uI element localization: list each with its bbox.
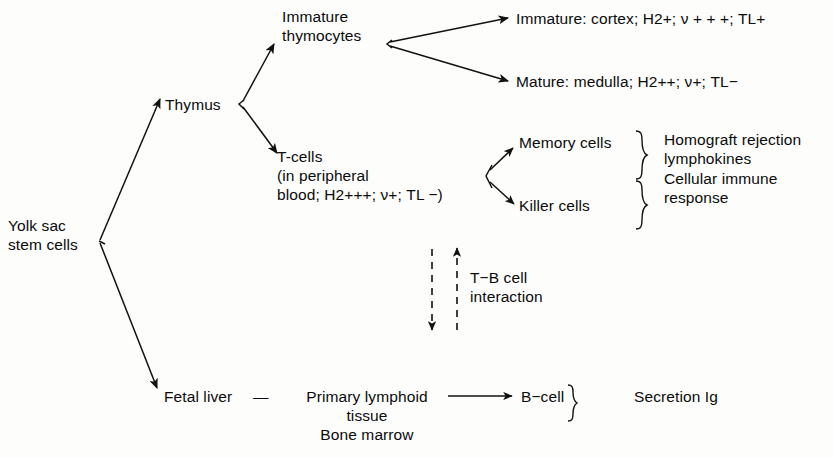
brace-memory-cells [634, 130, 650, 180]
node-immature-cortex: Immature: cortex; H2+; ν + + +; TL+ [516, 9, 765, 28]
node-fetal-liver: Fetal liver [164, 387, 232, 406]
diagram-canvas: Yolk sac stem cells Thymus Immature thym… [0, 0, 833, 457]
node-killer-cells: Killer cells [519, 196, 590, 215]
node-memory-cells: Memory cells [519, 133, 612, 152]
node-immature-thymocytes: Immature thymocytes [282, 7, 361, 45]
edge-thymus-to-immature-thymocytes [243, 44, 274, 101]
node-mature-medulla: Mature: medulla; H2++; ν+; TL− [516, 72, 738, 91]
edge-thymocytes-to-mature-medulla [390, 46, 508, 81]
node-yolk-sac-stem-cells: Yolk sac stem cells [8, 216, 138, 254]
node-t-cells: T-cells (in peripheral blood; H2+++; ν+;… [277, 147, 443, 204]
node-t-b-cell-interaction: T−B cell interaction [470, 268, 543, 306]
node-homograft-rejection: Homograft rejection lymphokines [664, 130, 801, 168]
edge-thymocytes-to-immature-cortex [390, 18, 508, 42]
node-secretion-ig: Secretion Ig [634, 387, 718, 406]
edge-thymus-to-t-cells [243, 107, 277, 153]
node-b-cell: B−cell [521, 387, 564, 406]
edge-t-cells-to-killer-cells [490, 182, 514, 204]
brace-killer-cells [634, 180, 650, 230]
node-thymus: Thymus [165, 95, 221, 114]
edge-yolk-sac-to-fetal-liver [100, 243, 157, 388]
node-primary-lymphoid-tissue: Primary lymphoid tissue Bone marrow [292, 387, 442, 444]
thymus-fork-vertex [239, 100, 244, 109]
node-cellular-immune-response: Cellular immune response [664, 169, 777, 207]
node-dash-connector: — [253, 387, 269, 406]
brace-b-cell [566, 384, 580, 422]
t-cells-fork-vertex [486, 165, 492, 188]
edge-t-cells-to-memory-cells [490, 148, 513, 170]
thymocytes-fork-vertex [387, 40, 392, 48]
